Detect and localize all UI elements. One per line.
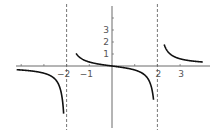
axes: [16, 6, 210, 128]
x-tick-label: 2: [156, 69, 162, 79]
tick-labels: −2−123123: [57, 25, 184, 79]
y-tick-label: 3: [103, 25, 109, 35]
x-tick-label: −2: [57, 69, 70, 79]
x-tick-label: 3: [178, 69, 184, 79]
y-tick-label: 2: [103, 37, 109, 47]
function-plot: −2−123123: [0, 0, 222, 137]
y-tick-label: 1: [103, 49, 109, 59]
curve-branches: [17, 45, 203, 114]
x-tick-label: −1: [80, 69, 93, 79]
curve-branch: [164, 45, 203, 62]
